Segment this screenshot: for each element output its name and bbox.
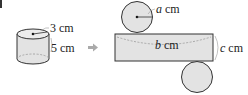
rect-height-leader [215, 36, 218, 60]
cylinder-net-diagram: 3 cm 5 cm acm bcm ccm [0, 0, 248, 95]
net-radius-label: acm [156, 2, 180, 16]
net-top-circle [122, 2, 156, 33]
net-height-label: ccm [220, 41, 244, 55]
arrow-icon [88, 44, 98, 52]
net-length-label: bcm [155, 38, 179, 52]
net-bottom-circle [182, 62, 213, 93]
corner-marker [0, 0, 2, 8]
cylinder [17, 28, 52, 64]
cylinder-radius-label: 3 cm [50, 21, 74, 35]
cylinder-height-label: 5 cm [51, 41, 75, 55]
